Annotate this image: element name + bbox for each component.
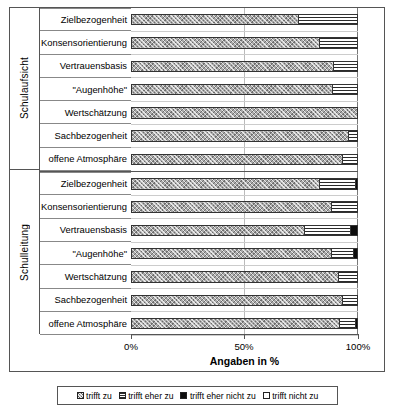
x-tick-100 (358, 334, 359, 339)
bar-row (131, 130, 358, 142)
gridline-horizontal (131, 288, 358, 289)
bar-segment-s0[interactable] (131, 130, 348, 142)
legend-swatch-s3 (263, 392, 270, 399)
category-label: Vertrauensbasis (40, 219, 131, 242)
bar-segment-s0[interactable] (131, 84, 332, 96)
stacked-bar[interactable] (131, 154, 358, 166)
bar-segment-s1[interactable] (348, 130, 358, 142)
bar-segment-s1[interactable] (338, 271, 358, 283)
bar-row (131, 201, 358, 213)
legend-label: trifft eher nicht zu (190, 391, 256, 401)
legend-label: trifft zu (86, 391, 112, 401)
bar-segment-s0[interactable] (131, 178, 319, 190)
bar-row (131, 154, 358, 166)
category-label: offene Atmosphäre (40, 312, 131, 335)
gridline-horizontal (131, 101, 358, 102)
bar-segment-s1[interactable] (298, 14, 358, 26)
bar-row (131, 61, 358, 73)
gridline-horizontal (131, 54, 358, 55)
stacked-bar[interactable] (131, 271, 358, 283)
bar-row (131, 84, 358, 96)
bar-row (131, 318, 358, 330)
bar-segment-s0[interactable] (131, 154, 342, 166)
category-label: Wertschätzung (40, 101, 131, 124)
bar-row (131, 295, 358, 307)
bar-segment-s0[interactable] (131, 61, 333, 73)
bar-segment-s1[interactable] (304, 225, 351, 237)
bar-segment-s1[interactable] (342, 154, 358, 166)
gridline-horizontal (131, 218, 358, 219)
legend-item[interactable]: trifft eher nicht zu (180, 391, 255, 401)
bar-segment-s0[interactable] (131, 14, 298, 26)
bar-row (131, 271, 358, 283)
category-label: "Augenhöhe" (40, 78, 131, 101)
stacked-bar[interactable] (131, 37, 358, 49)
bar-segment-s1[interactable] (319, 178, 354, 190)
category-label: Sachbezogenheit (40, 125, 131, 148)
bar-segment-s1[interactable] (331, 201, 358, 213)
stacked-bar[interactable] (131, 295, 358, 307)
stacked-bar[interactable] (131, 225, 358, 237)
stacked-bar[interactable] (131, 107, 358, 119)
x-tick-0 (131, 334, 132, 339)
legend-item[interactable]: trifft zu (77, 391, 112, 401)
gridline-horizontal (131, 265, 358, 266)
chart-container: Schulaufsicht Schulleitung Zielbezogenhe… (0, 0, 395, 417)
bar-segment-s0[interactable] (131, 37, 319, 49)
x-axis-line (131, 334, 359, 335)
bar-row (131, 37, 358, 49)
x-tick-label-50: 50% (220, 341, 268, 352)
stacked-bar[interactable] (131, 61, 358, 73)
stacked-bar[interactable] (131, 318, 358, 330)
x-axis-title: Angaben in % (131, 355, 358, 367)
bar-segment-s0[interactable] (131, 295, 342, 307)
stacked-bar[interactable] (131, 14, 358, 26)
bar-segment-s0[interactable] (131, 201, 331, 213)
gridline-horizontal (131, 31, 358, 32)
bar-row (131, 248, 358, 260)
category-label: "Augenhöhe" (40, 242, 131, 265)
category-label: Zielbezogenheit (40, 8, 131, 31)
bar-segment-s0[interactable] (131, 318, 339, 330)
chart-legend: trifft zutrifft eher zutrifft eher nicht… (57, 386, 338, 405)
legend-swatch-s1 (119, 392, 126, 399)
stacked-bar[interactable] (131, 130, 358, 142)
bar-row (131, 178, 358, 190)
bar-segment-s0[interactable] (131, 248, 331, 260)
group-label-schulaufsicht: Schulaufsicht (19, 57, 30, 119)
bar-row (131, 107, 358, 119)
group-label-schulleitung: Schulleitung (19, 224, 30, 281)
bar-segment-s0[interactable] (131, 107, 358, 119)
bar-segment-s1[interactable] (333, 61, 358, 73)
stacked-bar[interactable] (131, 84, 358, 96)
category-label: offene Atmosphäre (40, 148, 131, 171)
stacked-bar[interactable] (131, 248, 358, 260)
bar-segment-s2[interactable] (353, 248, 358, 260)
bar-segment-s1[interactable] (331, 248, 354, 260)
bar-segment-s1[interactable] (319, 37, 358, 49)
category-label: Vertrauensbasis (40, 55, 131, 78)
stacked-bar[interactable] (131, 201, 358, 213)
bar-segment-s2[interactable] (355, 318, 358, 330)
group-box-schulleitung: Schulleitung (10, 170, 40, 334)
gridline-horizontal (131, 311, 358, 312)
bar-segment-s1[interactable] (332, 84, 358, 96)
legend-item[interactable]: trifft eher zu (119, 391, 174, 401)
group-label-column: Schulaufsicht Schulleitung (10, 8, 40, 371)
category-label: Sachbezogenheit (40, 289, 131, 312)
legend-swatch-s0 (77, 392, 84, 399)
bar-segment-s1[interactable] (342, 295, 358, 307)
bar-segment-s0[interactable] (131, 225, 304, 237)
bar-segment-s2[interactable] (350, 225, 358, 237)
group-separator (131, 171, 358, 172)
gridline-horizontal (131, 77, 358, 78)
bar-segment-s0[interactable] (131, 271, 338, 283)
bars-plot-area (131, 8, 358, 334)
legend-swatch-s2 (180, 392, 187, 399)
bar-segment-s1[interactable] (339, 318, 355, 330)
legend-item[interactable]: trifft nicht zu (263, 391, 319, 401)
bar-segment-s2[interactable] (355, 178, 358, 190)
stacked-bar[interactable] (131, 178, 358, 190)
gridline-horizontal (131, 242, 358, 243)
category-label: Konsensorientierung (40, 195, 131, 218)
